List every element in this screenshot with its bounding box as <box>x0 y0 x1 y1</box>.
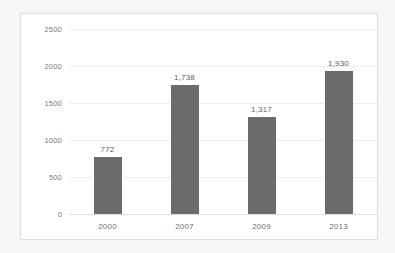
ytick-label-1000: 1000 <box>45 136 63 145</box>
bar-slot-2013: 1,930 <box>300 29 377 214</box>
ytick-label-2000: 2000 <box>45 62 63 71</box>
xtick-label-2000: 2000 <box>69 222 146 231</box>
ytick-label-2500: 2500 <box>45 25 63 34</box>
ytick-label-0: 0 <box>58 210 62 219</box>
bar-value-label: 1,317 <box>251 105 272 114</box>
bar-2000[interactable]: 772 <box>94 157 122 214</box>
bar-slot-2009: 1,317 <box>223 29 300 214</box>
bar-slot-2007: 1,738 <box>146 29 223 214</box>
ytick-label-1500: 1500 <box>45 99 63 108</box>
ytick-label-500: 500 <box>49 173 62 182</box>
bar-2013[interactable]: 1,930 <box>325 71 353 214</box>
plot-area: 2500 2000 1500 1000 500 0 772 <box>69 29 377 214</box>
xtick-label-2009: 2009 <box>223 222 300 231</box>
xtick-label-2007: 2007 <box>146 222 223 231</box>
bar-2007[interactable]: 1,738 <box>171 85 199 214</box>
bar-2009[interactable]: 1,317 <box>248 117 276 214</box>
bars-layer: 772 1,738 1,317 1,930 <box>69 29 377 214</box>
xtick-label-2013: 2013 <box>300 222 377 231</box>
bar-value-label: 1,930 <box>328 59 349 68</box>
chart-frame: 2500 2000 1500 1000 500 0 772 <box>20 13 378 240</box>
bar-value-label: 1,738 <box>174 73 195 82</box>
bar-value-label: 772 <box>101 145 115 154</box>
x-axis-labels: 2000 2007 2009 2013 <box>69 214 377 231</box>
bar-slot-2000: 772 <box>69 29 146 214</box>
bar-chart: 2500 2000 1500 1000 500 0 772 <box>0 0 395 253</box>
